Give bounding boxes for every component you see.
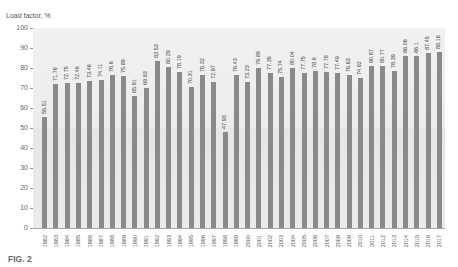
figure-label: FIG. 2 [8,254,32,264]
x-tick-label: 2015 [414,235,420,257]
x-tick-label: 1994 [177,235,183,257]
bar-2001 [256,68,261,228]
x-tick-label: 1998 [222,235,228,257]
x-tick-label: 2001 [256,235,262,257]
bar-2017 [437,52,442,228]
value-label: 70.31 [187,71,193,85]
bar-2002 [268,73,273,228]
value-label: 76.32 [199,59,205,73]
value-label: 72.46 [74,66,80,80]
value-label: 76.6 [108,61,114,72]
bar-1998 [223,132,228,228]
bar-1997 [211,82,216,228]
x-tick-label: 1985 [75,235,81,257]
bar-1993 [166,67,171,228]
bar-1989 [121,76,126,228]
x-axis-line [33,228,445,229]
value-label: 69.83 [142,72,148,86]
value-label: 79.89 [255,51,261,65]
y-tick-label: 40 [0,144,28,151]
x-tick-label: 1999 [233,235,239,257]
value-label: 75.89 [120,59,126,73]
x-tick-label: 2002 [267,235,273,257]
value-label: 88.16 [435,35,441,49]
y-tick-label: 20 [0,184,28,191]
x-tick-label: 1995 [188,235,194,257]
x-tick-label: 1990 [132,235,138,257]
bar-2006 [313,71,318,228]
value-label: 75.74 [277,60,283,74]
value-label: 80.29 [165,51,171,65]
x-tick-label: 2013 [391,235,397,257]
bar-1988 [110,75,115,228]
bar-2003 [279,77,284,228]
plot-area: 55.5171.7672.7572.4673.4674.1176.675.896… [33,28,445,228]
value-label: 80.04 [289,51,295,65]
bar-1983 [53,84,58,228]
bar-2008 [335,73,340,228]
x-tick-label: 1993 [166,235,172,257]
value-label: 77.35 [266,57,272,71]
bar-1992 [155,61,160,228]
x-tick-label: 1987 [98,235,104,257]
bar-1985 [76,83,81,228]
y-axis-title: Load factor, % [6,12,51,19]
bar-2012 [380,66,385,228]
y-tick-label: 30 [0,164,28,171]
x-tick-label: 2012 [380,235,386,257]
y-tick-label: 70 [0,84,28,91]
bar-2013 [392,71,397,228]
x-tick-label: 1988 [109,235,115,257]
x-tick-label: 1991 [143,235,149,257]
x-tick-label: 1992 [154,235,160,257]
bar-1984 [65,83,70,229]
bar-2000 [245,82,250,228]
bar-1986 [87,81,92,228]
y-tick-label: 0 [0,224,28,231]
y-tick-label: 50 [0,124,28,131]
x-tick-label: 2004 [290,235,296,257]
value-label: 78.19 [176,55,182,69]
value-label: 78.6 [311,57,317,68]
x-tick-label: 2016 [425,235,431,257]
value-label: 86.1 [413,42,419,53]
bar-1990 [132,96,137,228]
value-label: 65.91 [131,79,137,93]
x-tick-label: 1984 [64,235,70,257]
value-label: 47.93 [221,115,227,129]
y-tick-label: 60 [0,104,28,111]
x-tick-label: 2011 [369,235,375,257]
y-tick-label: 90 [0,44,28,51]
value-label: 78.39 [390,54,396,68]
value-label: 72.97 [210,65,216,79]
bar-1999 [234,75,239,228]
value-label: 72.75 [63,66,69,80]
value-label: 74.11 [97,63,103,76]
y-tick-label: 80 [0,64,28,71]
x-tick-label: 2005 [301,235,307,257]
value-label: 86.06 [402,39,408,53]
value-label: 87.45 [424,36,430,50]
x-tick-label: 1983 [53,235,59,257]
bar-1995 [189,87,194,228]
value-label: 77.75 [300,56,306,70]
x-tick-label: 1989 [121,235,127,257]
x-tick-label: 1982 [42,235,48,257]
value-label: 80.77 [379,50,385,64]
x-tick-label: 2003 [278,235,284,257]
x-tick-label: 2008 [335,235,341,257]
x-tick-label: 2000 [245,235,251,257]
x-tick-label: 2010 [357,235,363,257]
bar-1982 [42,117,47,228]
value-label: 80.87 [368,49,374,63]
bar-2010 [358,78,363,228]
x-tick-label: 2009 [346,235,352,257]
value-label: 83.53 [153,44,159,58]
value-label: 77.49 [334,56,340,70]
x-tick-label: 2017 [436,235,442,257]
bar-2016 [426,53,431,228]
x-tick-label: 2014 [403,235,409,257]
value-label: 71.76 [52,68,58,82]
x-tick-label: 1997 [211,235,217,257]
bar-1996 [200,75,205,228]
